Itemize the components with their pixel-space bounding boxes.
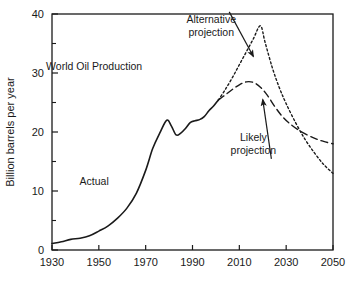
x-tick-label: 1930 <box>40 256 64 268</box>
chart-figure: 1930195019701990201020302050 010203040 W… <box>0 0 353 289</box>
y-tick-label: 30 <box>32 67 44 79</box>
data-series-group <box>52 26 333 244</box>
y-axis-title: Billion barrels per year <box>4 77 16 187</box>
cropped-caption-ghost <box>0 275 353 289</box>
y-tick-labels: 010203040 <box>32 8 44 256</box>
plot-title-annotation: World Oil Production <box>46 60 142 72</box>
world-oil-production-chart: 1930195019701990201020302050 010203040 W… <box>0 0 353 289</box>
x-tick-label: 2030 <box>274 256 298 268</box>
axes-frame <box>52 14 333 250</box>
alternative-projection-annotation: Alternativeprojection <box>186 13 236 38</box>
series-line-likely-projection <box>218 82 333 144</box>
x-tick-label: 2050 <box>321 256 345 268</box>
y-tick-label: 10 <box>32 185 44 197</box>
x-tick-label: 1970 <box>133 256 157 268</box>
annotations-group: World Oil ProductionActualAlternativepro… <box>46 12 276 187</box>
plot-box <box>52 14 333 250</box>
y-tick-label: 20 <box>32 126 44 138</box>
x-tick-label: 1990 <box>180 256 204 268</box>
y-tick-label: 40 <box>32 8 44 20</box>
y-tick-label: 0 <box>38 244 44 256</box>
axis-ticks <box>52 14 333 250</box>
x-tick-labels: 1930195019701990201020302050 <box>40 256 345 268</box>
series-line-actual <box>52 100 218 243</box>
x-tick-label: 1950 <box>87 256 111 268</box>
actual-annotation: Actual <box>80 175 109 187</box>
x-tick-label: 2010 <box>227 256 251 268</box>
